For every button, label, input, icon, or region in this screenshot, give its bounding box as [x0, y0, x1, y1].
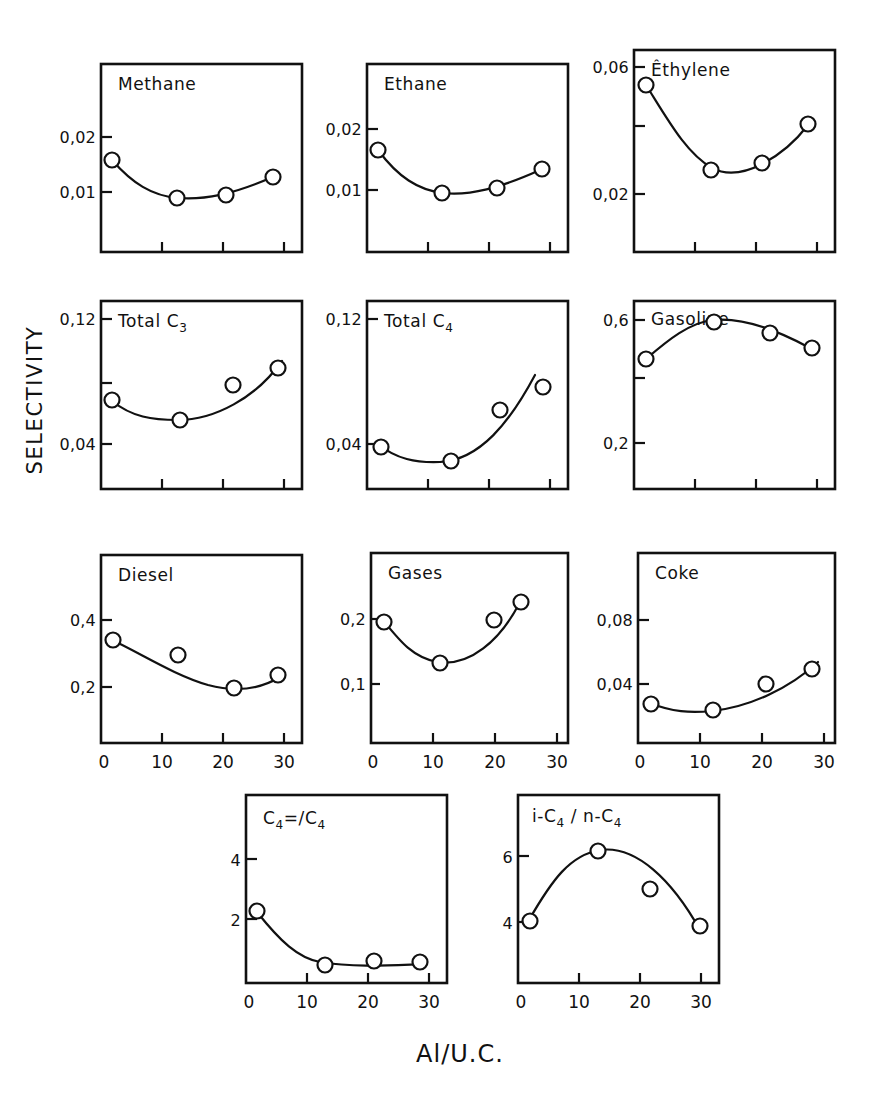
data-point: [536, 380, 551, 395]
y-ticklabel-0_04: 0,04: [326, 435, 362, 454]
y-ticklabel-0_1: 0,1: [340, 675, 366, 694]
x-ticklabel-10: 10: [568, 992, 590, 1012]
panel-total-c3: Total C3 0,12 0,04: [60, 301, 302, 489]
data-point: [271, 361, 286, 376]
fit-curve: [378, 375, 535, 462]
y-ticklabel-0_12: 0,12: [60, 310, 96, 329]
panel-title-c4-olefinicity: C4=/C4: [263, 808, 326, 832]
data-point: [535, 162, 550, 177]
x-ticklabel-10: 10: [151, 752, 173, 772]
x-ticklabel-10: 10: [422, 752, 444, 772]
panel-ethylene: Êthylene 0,06 0,02: [593, 50, 835, 252]
x-ticklabel-20: 20: [751, 752, 773, 772]
y-ticklabel-0_06: 0,06: [593, 58, 629, 77]
x-ticklabel-10: 10: [689, 752, 711, 772]
data-point: [591, 844, 606, 859]
data-point: [371, 143, 386, 158]
panel-ethane: Ethane 0,02 0,01: [326, 64, 568, 252]
panel-ic4-nc4-ratio: i-C4 / n-C4 6 4 0 10 20 30: [503, 795, 719, 1012]
y-ticklabel-0_2: 0,2: [70, 678, 96, 697]
x-ticklabel-0: 0: [516, 992, 527, 1012]
x-ticklabel-20: 20: [629, 992, 651, 1012]
data-point: [643, 882, 658, 897]
multi-panel-scatter-figure: SELECTIVITY Al/U.C. Methane 0,02 0,01: [0, 0, 885, 1108]
panel-gases: Gases 0,2 0,1 0 10 20 30: [340, 553, 568, 772]
fit-curve: [646, 85, 808, 173]
data-point: [433, 656, 448, 671]
data-point: [170, 191, 185, 206]
y-ticklabel-0_02: 0,02: [593, 185, 629, 204]
data-point: [377, 615, 392, 630]
data-point: [105, 393, 120, 408]
x-ticklabel-30: 30: [813, 752, 835, 772]
figure-root: SELECTIVITY Al/U.C. Methane 0,02 0,01: [0, 0, 885, 1108]
data-point: [707, 315, 722, 330]
panel-total-c4: Total C4 0,12 0,04: [326, 301, 568, 489]
panel-methane: Methane 0,02 0,01: [60, 64, 302, 252]
fit-curve: [650, 662, 818, 712]
y-ticklabel-0_01: 0,01: [60, 183, 96, 202]
x-ticklabel-30: 30: [690, 992, 712, 1012]
data-point: [805, 341, 820, 356]
fit-curve: [112, 640, 280, 689]
panel-title-total-c3: Total C3: [117, 311, 187, 335]
data-point: [250, 904, 265, 919]
y-ticklabel-0_2: 0,2: [603, 434, 629, 453]
data-point: [490, 181, 505, 196]
y-ticklabel-0_12: 0,12: [326, 310, 362, 329]
data-point: [801, 117, 816, 132]
data-point: [444, 454, 459, 469]
panel-frame: [634, 50, 835, 252]
y-ticklabel-0_02: 0,02: [60, 128, 96, 147]
data-point: [105, 153, 120, 168]
panel-diesel: Diesel 0,4 0,2 0 10 20 30: [70, 555, 302, 772]
data-point: [523, 914, 538, 929]
data-point: [639, 352, 654, 367]
data-point: [318, 958, 333, 973]
y-ticklabel-2: 2: [231, 911, 241, 930]
y-ticklabel-0_04: 0,04: [60, 435, 96, 454]
data-point: [706, 703, 721, 718]
x-ticklabel-20: 20: [484, 752, 506, 772]
panel-title-isobutane-ratio: i-C4 / n-C4: [532, 806, 622, 830]
x-ticklabel-0: 0: [368, 752, 379, 772]
data-point: [106, 633, 121, 648]
x-ticklabel-20: 20: [212, 752, 234, 772]
panel-title-coke: Coke: [655, 563, 699, 583]
fit-curve: [257, 912, 424, 966]
x-ticklabel-30: 30: [273, 752, 295, 772]
x-ticklabel-20: 20: [357, 992, 379, 1012]
y-ticklabel-6: 6: [503, 848, 513, 867]
data-point: [514, 595, 529, 610]
data-point: [271, 668, 286, 683]
y-ticklabel-0_2: 0,2: [340, 610, 366, 629]
y-ticklabel-0_01: 0,01: [326, 181, 362, 200]
x-ticklabel-10: 10: [296, 992, 318, 1012]
x-ticklabel-0: 0: [635, 752, 646, 772]
data-point: [435, 186, 450, 201]
panel-title-ethylene: Êthylene: [651, 59, 730, 80]
data-point: [226, 378, 241, 393]
data-point: [493, 403, 508, 418]
data-point: [173, 413, 188, 428]
y-ticklabel-0_08: 0,08: [597, 611, 633, 630]
panel-gasoline: Gasoline 0,6 0,2: [603, 301, 835, 489]
x-ticklabel-30: 30: [418, 992, 440, 1012]
y-ticklabel-0_6: 0,6: [603, 311, 629, 330]
data-point: [763, 326, 778, 341]
data-point: [413, 955, 428, 970]
panel-title-ethane: Ethane: [384, 74, 447, 94]
data-point: [693, 919, 708, 934]
data-point: [367, 954, 382, 969]
panel-title-diesel: Diesel: [118, 565, 174, 585]
data-point: [644, 697, 659, 712]
data-point: [704, 163, 719, 178]
y-axis-title: SELECTIVITY: [23, 325, 47, 474]
data-point: [639, 78, 654, 93]
y-ticklabel-0_4: 0,4: [70, 611, 96, 630]
panel-coke: Coke 0,08 0,04 0 10 20 30: [597, 553, 835, 772]
x-ticklabel-0: 0: [99, 752, 110, 772]
panel-title-total-c4: Total C4: [383, 311, 453, 335]
y-ticklabel-4: 4: [503, 914, 513, 933]
fit-curve: [529, 850, 700, 930]
